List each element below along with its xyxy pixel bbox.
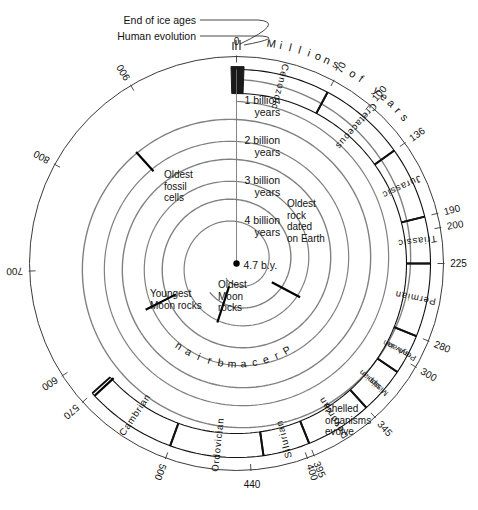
tick-label-800: 800: [31, 148, 51, 166]
period-divider-jurassic: [375, 151, 395, 165]
billion-years-label-3: 3 billion: [245, 174, 281, 186]
tick-label-345: 345: [375, 419, 395, 439]
tick-mark-800: [54, 164, 60, 167]
precambrian-label-char: r: [206, 354, 213, 367]
period-divider-mississippian: [377, 359, 397, 372]
geologic-time-spiral-figure: CenozoicCretaceousJurassicTriassicPermia…: [0, 0, 478, 510]
units-label-char: M: [266, 37, 277, 50]
precambrian-label-char: b: [217, 356, 225, 369]
tick-label-300: 300: [419, 366, 439, 384]
event-label-oldest-fossil-cells: Oldest: [164, 169, 193, 180]
event-label-oldest-rock-dated-on-earth: on Earth: [287, 233, 325, 244]
event-label-shelled-organisms-evolve: evolve: [325, 426, 354, 437]
period-label-triassic: Triassic: [397, 233, 438, 249]
precambrian-label-char: c: [251, 355, 258, 368]
tick-mark-345: [371, 413, 376, 418]
event-label-oldest-moon-rocks: rocks: [218, 302, 242, 313]
precambrian-label-char: P: [280, 343, 292, 357]
billion-years-label-4: 4 billion: [245, 214, 281, 226]
event-label-youngest-moon-rocks: Youngest: [150, 288, 192, 299]
period-label-cretaceous: Cretaceous: [333, 101, 379, 152]
center-point: [233, 260, 239, 266]
callout-label-end-of-ice-ages: End of ice ages: [124, 14, 196, 26]
tick-label-280: 280: [433, 338, 453, 355]
units-label-char: f: [357, 73, 367, 85]
tick-label-570: 570: [61, 402, 81, 422]
event-label-oldest-fossil-cells: fossil: [164, 181, 187, 192]
period-divider-cretaceous: [316, 92, 327, 113]
units-label-char: l: [288, 41, 293, 53]
units-label-char: o: [313, 49, 323, 62]
event-label-oldest-moon-rocks: Oldest: [218, 279, 247, 290]
period-label-cambrian: Cambrian: [117, 391, 153, 437]
tick-label-190: 190: [442, 202, 461, 217]
billion-years-label-1: 1 billion: [245, 94, 281, 106]
units-label-char: l: [297, 44, 303, 56]
tick-label-500: 500: [152, 462, 168, 482]
event-marker-oldest-fossil-cells: [136, 152, 153, 171]
event-marker-shelled-organisms-evolve: [95, 378, 114, 396]
event-label-youngest-moon-rocks: Moon rocks: [150, 300, 202, 311]
units-label-char: s: [398, 111, 411, 123]
event-label-oldest-fossil-cells: cells: [164, 192, 184, 203]
period-divider-ordovician: [260, 432, 263, 456]
billion-years-label-4-line2: years: [255, 226, 281, 238]
quaternary-marker: [231, 67, 244, 94]
event-marker-oldest-rock-dated-on-earth: [272, 282, 300, 297]
callout-label-human-evolution: Human evolution: [117, 30, 196, 42]
tick-mark-300: [411, 364, 417, 368]
precambrian-label-char: a: [240, 357, 247, 369]
tick-label-0: 0: [234, 36, 240, 47]
precambrian-label-char: a: [183, 345, 194, 358]
tick-label-600: 600: [40, 375, 60, 394]
period-divider-triassic: [401, 217, 424, 223]
tick-label-200: 200: [446, 218, 465, 232]
event-label-oldest-rock-dated-on-earth: dated: [287, 221, 312, 232]
billion-years-label-3-line2: years: [255, 186, 281, 198]
period-divider-silurian: [300, 421, 309, 443]
precambrian-label-char: r: [272, 349, 280, 362]
billion-years-label-2-line2: years: [255, 146, 281, 158]
tick-mark-570: [82, 398, 87, 403]
tick-label-225: 225: [450, 258, 467, 269]
units-label-char: r: [393, 105, 404, 116]
spiral-diagram-svg: CenozoicCretaceousJurassicTriassicPermia…: [0, 0, 478, 510]
units-label-char: i: [279, 39, 284, 51]
period-divider-cambrian: [170, 423, 178, 446]
center-age-label: 4.7 b.y.: [244, 259, 278, 271]
billion-years-label-1-line2: years: [255, 106, 281, 118]
tick-label-900: 900: [114, 62, 132, 82]
event-label-oldest-rock-dated-on-earth: Oldest: [287, 198, 316, 209]
tick-mark-900: [130, 85, 134, 91]
period-divider-pennsylvanian: [394, 327, 416, 336]
precambrian-label-char: n: [173, 339, 185, 352]
event-label-oldest-moon-rocks: Moon: [218, 291, 243, 302]
units-label-char: n: [322, 53, 332, 66]
event-label-oldest-rock-dated-on-earth: rock: [287, 210, 307, 221]
precambrian-label-char: m: [228, 357, 238, 369]
event-label-shelled-organisms-evolve: organisms: [325, 415, 371, 426]
tick-label-440: 440: [244, 479, 261, 490]
tick-mark-136: [400, 142, 406, 146]
period-label-permian: Permian: [394, 289, 437, 308]
tick-mark-600: [62, 372, 68, 376]
period-label-jurassic: Jurassic: [380, 173, 423, 201]
tick-label-700: 700: [6, 266, 24, 278]
tick-mark-70: [331, 80, 334, 86]
event-label-shelled-organisms-evolve: Shelled: [325, 403, 358, 414]
units-label-char: o: [347, 67, 358, 80]
units-label-char: i: [306, 47, 312, 59]
tick-label-136: 136: [407, 125, 427, 144]
billion-years-label-2: 2 billion: [245, 134, 281, 146]
